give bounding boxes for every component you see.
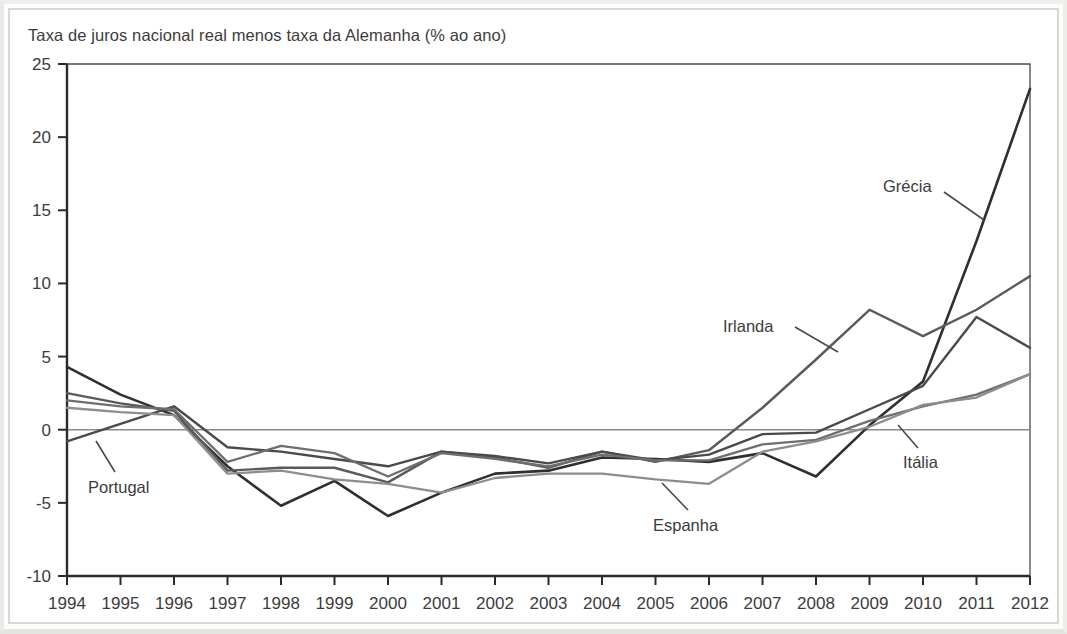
- x-axis-tick-label: 1997: [209, 594, 247, 613]
- series-label-espanha: Espanha: [653, 516, 719, 534]
- x-axis-tick-label: 2001: [423, 594, 461, 613]
- series-label-itlia: Itália: [903, 453, 939, 471]
- x-axis-tick-label: 2008: [797, 594, 835, 613]
- x-axis-tick-label: 2012: [1011, 594, 1049, 613]
- line-chart: -10-50510152025 199419951996199719981999…: [0, 0, 1067, 634]
- y-axis-tick-label: 5: [42, 348, 51, 367]
- x-axis-tick-label: 2007: [744, 594, 782, 613]
- x-axis-tick-label: 1995: [102, 594, 140, 613]
- x-axis-tick-label: 1994: [48, 594, 86, 613]
- x-axis-tick-label: 1998: [262, 594, 300, 613]
- series-label-portugal: Portugal: [88, 478, 149, 496]
- x-axis-tick-label: 2002: [476, 594, 514, 613]
- x-axis-tick-label: 2000: [369, 594, 407, 613]
- x-axis-tick-label: 2006: [690, 594, 728, 613]
- plot-background: [67, 64, 1030, 576]
- x-axis-tick-label: 2005: [637, 594, 675, 613]
- series-label-grcia: Grécia: [883, 177, 932, 195]
- x-axis-tick-label: 1999: [316, 594, 354, 613]
- y-axis-tick-label: 20: [32, 128, 51, 147]
- y-axis-tick-label: 15: [32, 201, 51, 220]
- y-axis-tick-label: 10: [32, 274, 51, 293]
- x-axis-tick-label: 1996: [155, 594, 193, 613]
- x-axis-tick-label: 2010: [904, 594, 942, 613]
- figure-root: Taxa de juros nacional real menos taxa d…: [0, 0, 1067, 634]
- y-axis-tick-label: -10: [26, 567, 51, 586]
- x-axis-tick-label: 2003: [530, 594, 568, 613]
- y-axis-tick-label: 0: [42, 421, 51, 440]
- x-axis-ticks: 1994199519961997199819992000200120022003…: [48, 576, 1049, 613]
- x-axis-tick-label: 2009: [851, 594, 889, 613]
- y-axis-tick-label: 25: [32, 55, 51, 74]
- x-axis-tick-label: 2011: [958, 594, 995, 613]
- series-label-irlanda: Irlanda: [723, 317, 774, 335]
- x-axis-tick-label: 2004: [583, 594, 621, 613]
- y-axis-tick-label: -5: [36, 494, 51, 513]
- y-axis-ticks: -10-50510152025: [26, 55, 67, 586]
